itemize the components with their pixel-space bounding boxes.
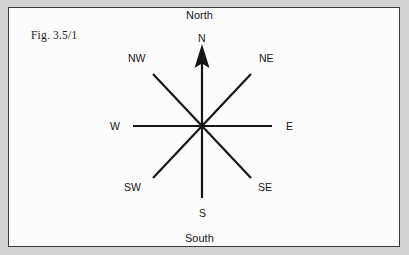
label-n: N xyxy=(198,33,206,44)
label-ne: NE xyxy=(259,53,274,64)
figure-page: Fig. 3.5/1 North South N S W E NW NE SW … xyxy=(0,0,409,255)
label-w: W xyxy=(110,121,120,132)
label-se: SE xyxy=(258,182,272,193)
label-e: E xyxy=(286,121,293,132)
label-nw: NW xyxy=(128,53,146,64)
label-north-word: North xyxy=(186,10,213,21)
label-s: S xyxy=(199,208,206,219)
label-sw: SW xyxy=(124,182,141,193)
label-south-word: South xyxy=(185,233,214,244)
